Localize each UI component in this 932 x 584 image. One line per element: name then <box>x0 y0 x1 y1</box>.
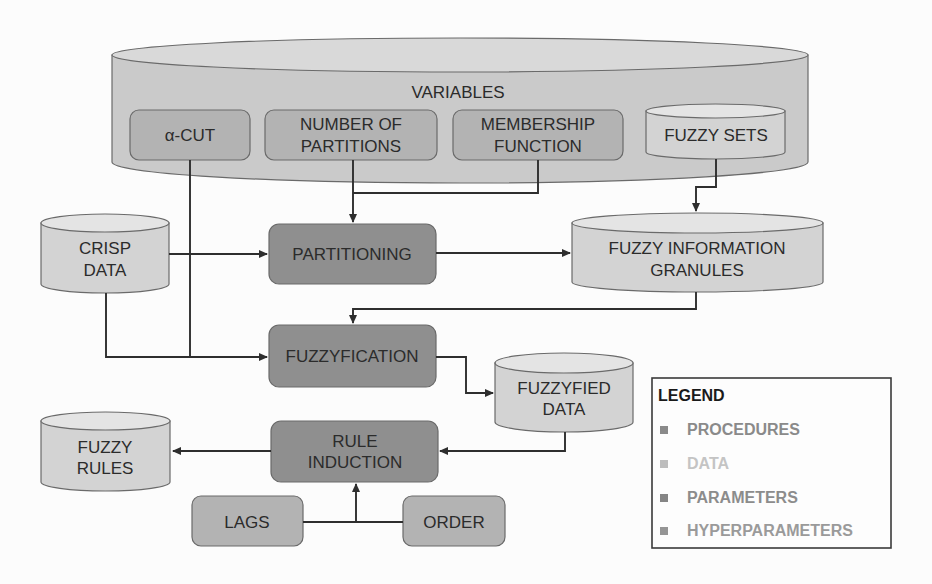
alpha-cut-box: α-CUT <box>130 110 250 160</box>
order-label: ORDER <box>423 513 484 532</box>
lags-label: LAGS <box>224 513 269 532</box>
crisp-data-label-line2: DATA <box>84 261 127 280</box>
fuzzyfied-data-label-line1: FUZZYFIED <box>517 379 611 398</box>
fuzzy-information-granules-cylinder: FUZZY INFORMATION GRANULES <box>572 213 823 292</box>
fuzzyfication-box: FUZZYFICATION <box>269 325 436 387</box>
edge-crisp-data-to-fuzzyfication <box>106 293 267 357</box>
legend-title: LEGEND <box>658 387 725 404</box>
edge-fuzzy-information-granules-to-fuzzyfication <box>353 292 696 323</box>
lags-box: LAGS <box>192 496 303 546</box>
rule-induction-label-line1: RULE <box>332 432 377 451</box>
rule-induction-box: RULE INDUCTION <box>271 421 438 482</box>
number-of-partitions-label-line1: NUMBER OF <box>300 115 402 134</box>
legend: LEGEND PROCEDURES DATA PARAMETERS HYPERP… <box>652 378 891 548</box>
variables-label: VARIABLES <box>411 83 504 102</box>
legend-swatch-procedures <box>660 426 668 434</box>
fuzzyfied-data-cylinder: FUZZYFIED DATA <box>495 353 633 432</box>
fuzzy-sets-label: FUZZY SETS <box>664 126 768 145</box>
legend-label-procedures: PROCEDURES <box>687 421 800 438</box>
legend-swatch-parameters <box>660 494 668 502</box>
legend-swatch-hyperparameters <box>660 527 668 535</box>
fuzzyfication-label: FUZZYFICATION <box>286 347 419 366</box>
alpha-cut-label: α-CUT <box>165 126 215 145</box>
partitioning-label: PARTITIONING <box>292 245 411 264</box>
crisp-data-label-line1: CRISP <box>79 239 131 258</box>
legend-swatch-data <box>660 460 668 468</box>
fuzzy-pipeline-diagram: VARIABLES α-CUT NUMBER OF PARTITIONS MEM… <box>0 0 932 584</box>
legend-label-hyperparameters: HYPERPARAMETERS <box>687 522 853 539</box>
legend-item-hyperparameters: HYPERPARAMETERS <box>660 522 853 539</box>
fuzzy-information-granules-label-line1: FUZZY INFORMATION <box>609 239 786 258</box>
fuzzy-rules-label-line1: FUZZY <box>78 438 133 457</box>
number-of-partitions-label-line2: PARTITIONS <box>301 137 401 156</box>
rule-induction-label-line2: INDUCTION <box>308 453 402 472</box>
crisp-data-cylinder: CRISP DATA <box>41 214 169 293</box>
fuzzy-rules-cylinder: FUZZY RULES <box>41 412 170 491</box>
edge-fuzzyfied-data-to-rule-induction <box>440 432 565 451</box>
fuzzy-sets-cylinder: FUZZY SETS <box>646 104 785 159</box>
fuzzy-rules-label-line2: RULES <box>77 459 134 478</box>
fuzzyfied-data-label-line2: DATA <box>543 400 586 419</box>
variables-cylinder-top <box>112 38 808 72</box>
edge-fuzzyfication-to-fuzzyfied-data <box>436 357 493 393</box>
legend-label-parameters: PARAMETERS <box>687 489 798 506</box>
membership-function-label-line1: MEMBERSHIP <box>481 115 595 134</box>
fuzzy-information-granules-label-line2: GRANULES <box>650 261 744 280</box>
number-of-partitions-box: NUMBER OF PARTITIONS <box>265 110 437 160</box>
order-box: ORDER <box>403 496 505 546</box>
membership-function-label-line2: FUNCTION <box>494 137 582 156</box>
legend-label-data: DATA <box>687 455 730 472</box>
membership-function-box: MEMBERSHIP FUNCTION <box>453 110 623 160</box>
partitioning-box: PARTITIONING <box>269 224 436 284</box>
